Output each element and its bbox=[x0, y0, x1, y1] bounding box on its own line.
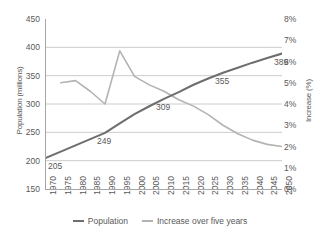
y-tick-left-400: 400 bbox=[14, 43, 40, 52]
y-tick-left-350: 350 bbox=[14, 72, 40, 81]
data-label-309: 309 bbox=[156, 103, 170, 112]
y-tick-left-300: 300 bbox=[14, 100, 40, 109]
x-tick-2050: 2050 bbox=[285, 176, 294, 195]
data-label-389: 389 bbox=[274, 58, 288, 67]
y-tick-right-2pct: 2% bbox=[284, 143, 310, 152]
chart-legend: PopulationIncrease over five years bbox=[0, 216, 320, 226]
y-tick-right-5pct: 5% bbox=[284, 79, 310, 88]
plot-area: 205249309355389 bbox=[45, 19, 282, 190]
y-tick-right-8pct: 8% bbox=[284, 15, 310, 24]
y-tick-right-3pct: 3% bbox=[284, 121, 310, 130]
y-tick-left-150: 150 bbox=[14, 185, 40, 194]
legend-swatch-icon bbox=[73, 220, 84, 222]
chart-figure: Population (millions) Increase (%) 15020… bbox=[0, 0, 320, 240]
y-tick-left-250: 250 bbox=[14, 128, 40, 137]
legend-swatch-icon bbox=[142, 220, 153, 222]
data-label-355: 355 bbox=[215, 77, 229, 86]
y-tick-right-1pct: 1% bbox=[284, 164, 310, 173]
data-label-249: 249 bbox=[97, 137, 111, 146]
legend-label: Increase over five years bbox=[157, 216, 247, 226]
y-tick-right-7pct: 7% bbox=[284, 36, 310, 45]
legend-label: Population bbox=[88, 216, 128, 226]
y-tick-left-200: 200 bbox=[14, 157, 40, 166]
legend-item-population[interactable]: Population bbox=[73, 216, 128, 226]
y-tick-right-4pct: 4% bbox=[284, 100, 310, 109]
y-tick-left-450: 450 bbox=[14, 15, 40, 24]
legend-item-increase[interactable]: Increase over five years bbox=[142, 216, 247, 226]
data-label-205: 205 bbox=[48, 162, 62, 171]
